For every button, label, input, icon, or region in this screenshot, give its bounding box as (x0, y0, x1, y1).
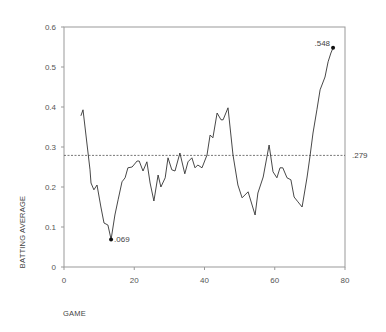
y-axis: 00.10.20.30.40.50.6 (45, 23, 64, 272)
plot-border (64, 27, 345, 267)
min-value-label: .069 (114, 235, 130, 244)
reference-line: .279 (64, 151, 368, 160)
y-tick-label: 0 (52, 263, 57, 272)
y-tick-label: 0.2 (45, 183, 57, 192)
plot-frame (64, 27, 345, 267)
x-axis: 020406080 (62, 267, 350, 285)
data-series (81, 48, 333, 240)
y-tick-label: 0.5 (45, 63, 57, 72)
y-tick-label: 0.3 (45, 143, 57, 152)
y-tick-label: 0.4 (45, 103, 57, 112)
batting-average-line (81, 48, 333, 240)
data-point-marker (109, 237, 113, 241)
mean-label: .279 (352, 151, 368, 160)
x-tick-label: 40 (200, 276, 209, 285)
x-tick-label: 0 (62, 276, 67, 285)
x-tick-label: 80 (341, 276, 350, 285)
annotations: .069.548 (109, 39, 335, 245)
y-tick-label: 0.6 (45, 23, 57, 32)
y-axis-title: BATTING AVERAGE (18, 196, 27, 268)
x-tick-label: 20 (130, 276, 139, 285)
x-axis-title: GAME (63, 309, 86, 318)
chart: 00.10.20.30.40.50.6 020406080 .279 .069.… (0, 0, 386, 332)
y-tick-label: 0.1 (45, 223, 57, 232)
data-point-marker (331, 46, 335, 50)
x-tick-label: 60 (270, 276, 279, 285)
max-value-label: .548 (314, 39, 330, 48)
